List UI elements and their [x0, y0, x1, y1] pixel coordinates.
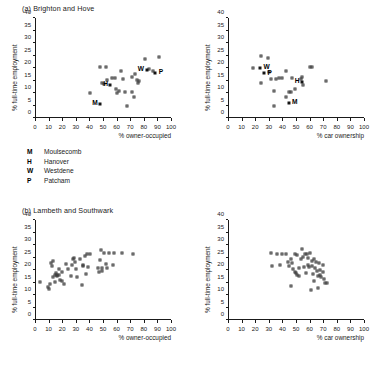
- x-axis-tick-label: 100: [359, 124, 369, 130]
- y-axis-tick-label: 0: [221, 109, 224, 115]
- x-axis-tick-label: 50: [100, 326, 107, 332]
- data-point: [284, 252, 287, 255]
- data-point: [309, 251, 312, 254]
- y-axis-label: % full-time employment: [11, 45, 18, 111]
- data-point: [133, 73, 136, 76]
- data-point: [89, 253, 92, 256]
- data-point: [259, 82, 262, 85]
- y-axis-tick: [226, 269, 229, 270]
- x-axis-tick-label: 60: [113, 326, 120, 332]
- y-axis-tick: [226, 219, 229, 220]
- y-axis-tick: [226, 92, 229, 93]
- x-axis-tick-label: 80: [333, 124, 340, 130]
- x-axis-tick: [76, 118, 77, 121]
- x-axis-tick-label: 70: [127, 124, 134, 130]
- x-axis-tick-label: 90: [347, 124, 354, 130]
- x-axis-tick-label: 0: [33, 124, 36, 130]
- key-name: Patcham: [44, 176, 70, 186]
- x-axis-tick-label: 90: [154, 326, 161, 332]
- data-point: [321, 264, 324, 267]
- x-axis-tick: [171, 118, 172, 121]
- x-axis-tick: [89, 118, 90, 121]
- y-axis-tick: [226, 67, 229, 68]
- x-axis-tick-label: 60: [306, 124, 313, 130]
- y-axis-tick: [33, 30, 36, 31]
- x-axis-tick: [89, 320, 90, 323]
- y-axis-tick-label: 10: [24, 84, 31, 90]
- x-axis-label: % car ownership: [317, 132, 364, 139]
- data-point: [64, 263, 67, 266]
- x-axis-tick: [49, 118, 50, 121]
- x-axis-tick-label: 10: [45, 124, 52, 130]
- y-axis-tick: [226, 232, 229, 233]
- y-axis-tick: [226, 117, 229, 118]
- key-code: H: [27, 157, 44, 167]
- y-axis-label: % full-time employment: [11, 247, 18, 313]
- y-axis-tick-label: 5: [28, 97, 31, 103]
- key-name: Moulsecomb: [44, 147, 81, 157]
- x-axis-tick: [255, 118, 256, 121]
- x-axis-tick: [255, 320, 256, 323]
- data-point: [85, 273, 88, 276]
- y-axis-tick-label: 40: [217, 9, 224, 15]
- data-point: [123, 91, 126, 94]
- data-point: [137, 79, 140, 82]
- data-point: [52, 260, 55, 263]
- x-axis-tick-label: 10: [238, 326, 245, 332]
- y-axis-tick-label: 30: [217, 34, 224, 40]
- y-axis-tick-label: 0: [28, 109, 31, 115]
- y-axis-label: % full-time employment: [204, 45, 211, 111]
- x-axis-tick: [310, 118, 311, 121]
- data-point: [298, 274, 301, 277]
- x-axis-tick-label: 20: [59, 124, 66, 130]
- data-point-labelled: [99, 102, 102, 105]
- y-axis-tick: [33, 80, 36, 81]
- data-point: [324, 79, 327, 82]
- data-point: [279, 264, 282, 267]
- panel-brighton-car-ownership: WPHM % full-time employment % car owners…: [193, 0, 387, 150]
- x-axis-tick-label: 70: [320, 124, 327, 130]
- data-point: [38, 281, 41, 284]
- x-axis-tick: [228, 118, 229, 121]
- y-axis-tick-label: 15: [217, 72, 224, 78]
- data-point: [47, 287, 50, 290]
- x-axis-tick: [171, 320, 172, 323]
- data-point: [70, 275, 73, 278]
- x-axis-tick: [144, 118, 145, 121]
- x-axis-tick-label: 50: [100, 124, 107, 130]
- y-axis-tick-label: 35: [24, 224, 31, 230]
- data-point: [120, 70, 123, 73]
- data-point: [267, 57, 270, 60]
- y-axis-tick: [33, 55, 36, 56]
- data-point: [98, 65, 101, 68]
- x-axis-tick-label: 20: [59, 326, 66, 332]
- key-item: H Hanover: [27, 157, 81, 167]
- data-point: [105, 263, 108, 266]
- data-point: [280, 76, 283, 79]
- y-axis-tick-label: 40: [24, 211, 31, 217]
- x-axis-label: % owner-occupied: [118, 132, 171, 139]
- y-axis-tick: [226, 244, 229, 245]
- x-axis-tick-label: 0: [33, 326, 36, 332]
- data-point-labelled: [287, 102, 290, 105]
- data-point: [58, 274, 61, 277]
- y-axis-tick: [226, 80, 229, 81]
- y-axis-tick: [226, 307, 229, 308]
- data-point: [322, 270, 325, 273]
- x-axis-tick: [350, 320, 351, 323]
- data-point: [72, 256, 75, 259]
- data-point-labelled: [145, 68, 148, 71]
- y-axis-tick-label: 40: [24, 9, 31, 15]
- x-axis-tick-label: 0: [226, 326, 229, 332]
- y-axis-tick-label: 35: [217, 224, 224, 230]
- x-axis-tick: [62, 320, 63, 323]
- data-point: [269, 251, 272, 254]
- y-axis-tick-label: 25: [24, 47, 31, 53]
- data-point: [296, 254, 299, 257]
- y-axis-tick-label: 15: [24, 274, 31, 280]
- data-point: [289, 258, 292, 261]
- y-axis-tick-label: 10: [24, 286, 31, 292]
- x-axis-tick-label: 100: [359, 326, 369, 332]
- y-axis-tick-label: 25: [217, 47, 224, 53]
- x-axis-tick: [242, 320, 243, 323]
